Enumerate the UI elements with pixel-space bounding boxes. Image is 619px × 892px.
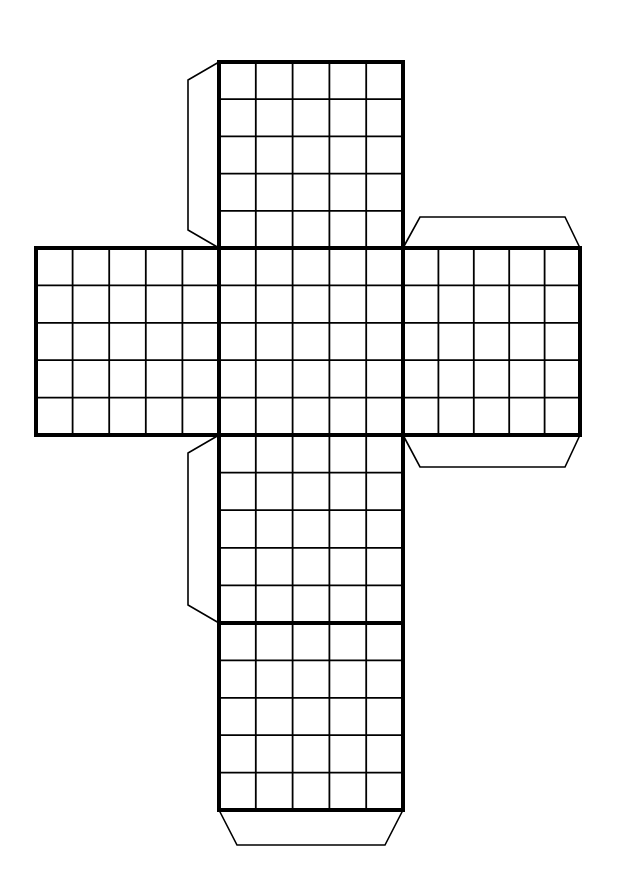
face-left xyxy=(36,248,219,435)
tab-lower-left xyxy=(188,435,219,623)
face-lower-grid xyxy=(219,435,403,623)
face-top-grid xyxy=(219,62,403,248)
tab-bottom xyxy=(219,810,403,845)
face-top xyxy=(219,62,403,248)
face-bottom xyxy=(219,623,403,810)
face-center-grid xyxy=(219,248,403,435)
face-left-grid xyxy=(36,248,219,435)
face-right xyxy=(403,248,580,435)
face-lower xyxy=(219,435,403,623)
face-center xyxy=(219,248,403,435)
face-bottom-grid xyxy=(219,623,403,810)
glue-tabs xyxy=(188,62,580,845)
face-right-grid xyxy=(403,248,580,435)
tab-right-bottom xyxy=(403,435,580,467)
tab-top-left xyxy=(188,62,219,248)
tab-right-top xyxy=(403,217,580,248)
cube-net-diagram xyxy=(0,0,619,892)
